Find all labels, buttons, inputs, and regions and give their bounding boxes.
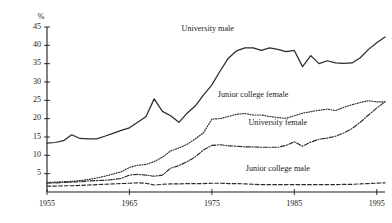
y-tick-label: 15 <box>33 132 41 141</box>
y-tick-label: 20 <box>33 113 41 122</box>
y-axis-unit-label: % <box>38 12 45 21</box>
y-tick-label: 45 <box>33 22 41 31</box>
series-label: Junior college female <box>218 90 289 99</box>
line-chart-canvas: 51015202530354045 19551965197519851995 %… <box>0 0 392 223</box>
series-label: University male <box>181 24 234 33</box>
x-tick-label: 1975 <box>204 199 220 208</box>
x-tick-label: 1995 <box>369 199 385 208</box>
y-tick-label: 40 <box>33 40 41 49</box>
series-line <box>47 102 385 183</box>
axes-group <box>47 27 385 192</box>
series-label: University female <box>248 118 307 127</box>
series-line <box>47 37 385 143</box>
x-tick-label: 1985 <box>286 199 302 208</box>
series-label: Junior college male <box>246 164 310 173</box>
chart-figure: 51015202530354045 19551965197519851995 %… <box>0 0 392 223</box>
x-tick-label: 1955 <box>39 199 55 208</box>
series-lines-group <box>47 37 385 186</box>
y-tick-label: 35 <box>33 58 41 67</box>
y-tick-label: 30 <box>33 77 41 86</box>
y-tick-label: 5 <box>37 168 41 177</box>
y-tick-label: 25 <box>33 95 41 104</box>
x-tick-label: 1965 <box>121 199 137 208</box>
y-tick-label: 10 <box>33 150 41 159</box>
series-line <box>47 183 385 186</box>
series-line <box>47 101 385 183</box>
